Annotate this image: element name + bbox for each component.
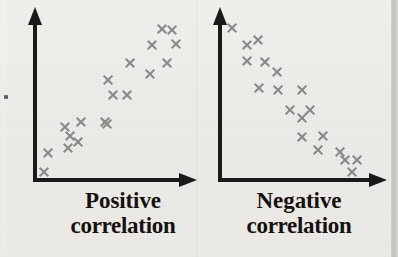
scatter-point [255,84,264,93]
scatter-markers-negative [228,24,362,177]
caption-negative-line2: correlation [200,213,398,238]
x-axis-arrowhead-icon [369,173,387,187]
scatter-point [261,58,270,67]
correlation-figure: Positive correlation Negative correlatio… [0,0,398,257]
scatter-point [306,106,315,115]
scatter-point [273,68,282,77]
scatter-point [314,146,323,155]
scatter-point [348,168,357,177]
caption-negative-correlation: Negative correlation [200,188,398,238]
scatter-point [353,156,362,165]
scatter-point [254,36,263,45]
y-axis-arrowhead-icon [213,7,227,25]
scatter-point [286,106,295,115]
paper-speck [4,95,8,99]
scatter-point [243,57,252,66]
caption-negative-line1: Negative [257,188,342,213]
page-edge-band [391,0,398,257]
scatter-point [243,41,252,50]
scatter-point [341,156,350,165]
scatter-point [228,24,237,33]
scatter-point [298,133,307,142]
scatter-point [298,86,307,95]
scatter-point [274,86,283,95]
scatter-point [298,114,307,123]
scatter-point [336,148,345,157]
scatter-point [319,132,328,141]
